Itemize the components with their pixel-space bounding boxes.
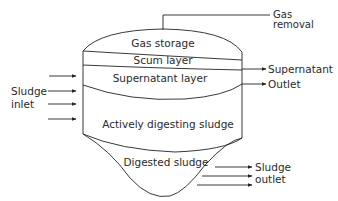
supernatant-outlet-label-1: Supernatant [268, 63, 333, 75]
supernatant-outlet-label-2: Outlet [268, 78, 301, 90]
sludge-inlet-label-1: Sludge [11, 85, 47, 97]
digester-diagram: Gas storage Scum layer Supernatant layer… [0, 0, 338, 201]
gas-removal-label-2: removal [273, 19, 314, 30]
zone-label-gas: Gas storage [131, 37, 194, 49]
sludge-inlet-arrows [48, 76, 76, 119]
sludge-inlet-label-2: inlet [11, 98, 34, 110]
zone-label-scum: Scum layer [133, 54, 193, 66]
sludge-outlet-arrows [197, 167, 252, 185]
zone-label-digested: Digested sludge [123, 156, 208, 168]
active-boundary-bottom [83, 134, 242, 152]
supernatant-boundary-bottom [83, 84, 242, 99]
supernatant-outlet-arrows [242, 69, 266, 84]
zone-label-active: Actively digesting sludge [102, 118, 234, 130]
sludge-outlet-label-2: outlet [255, 173, 286, 185]
zone-label-supernatant: Supernatant layer [113, 72, 208, 84]
gas-removal-pipe [163, 15, 270, 30]
sludge-outlet-label-1: Sludge [255, 161, 291, 173]
